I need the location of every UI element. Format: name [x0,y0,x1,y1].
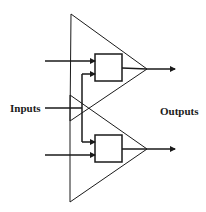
outputs-label: Outputs [160,105,199,117]
diagram-canvas: Inputs Outputs [0,0,206,212]
upper-box-output [122,68,147,69]
inputs-label: Inputs [10,102,41,114]
lower-box [95,135,122,162]
upper-box [95,54,122,81]
